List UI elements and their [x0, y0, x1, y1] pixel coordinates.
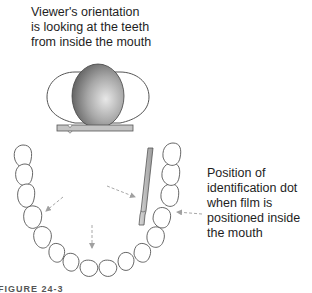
- film-horizontal-icon: [57, 125, 133, 133]
- head-top-view-icon: [47, 64, 149, 130]
- mandibular-arch-icon: [14, 143, 181, 276]
- film-vertical-icon: [139, 148, 153, 225]
- arrow-to-left-molars-icon: [46, 197, 63, 211]
- arrow-to-dot-icon: [177, 212, 202, 214]
- dental-film-diagram: [0, 0, 312, 293]
- arrow-to-film-icon: [107, 186, 135, 197]
